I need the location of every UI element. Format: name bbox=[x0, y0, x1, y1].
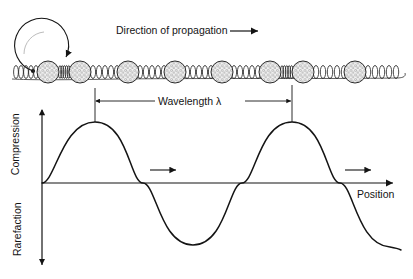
x-axis-label: Position bbox=[357, 189, 394, 200]
propagation-label: Direction of propagation bbox=[116, 25, 228, 36]
spring-mass-chain bbox=[12, 61, 405, 83]
wavelength-label: Wavelength λ bbox=[158, 96, 221, 107]
figure-longitudinal-wave: Direction of propagation Wavelength λ Po… bbox=[0, 0, 413, 279]
y-axis-label-compression: Compression bbox=[10, 109, 21, 179]
y-axis-label-rarefaction: Rarefaction bbox=[12, 194, 23, 264]
wave-curve bbox=[42, 122, 401, 250]
graph-axes bbox=[42, 110, 393, 265]
figure-canvas bbox=[0, 0, 413, 279]
